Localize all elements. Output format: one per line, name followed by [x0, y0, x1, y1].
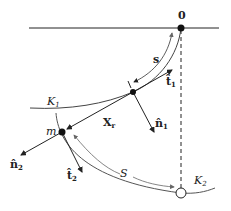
- t2-vector: [62, 132, 82, 172]
- xr-vector: [67, 92, 133, 129]
- t1-label: t̂1: [166, 74, 176, 89]
- k2-label: K2: [193, 174, 207, 188]
- origin-point: [178, 25, 185, 32]
- S-label: S: [120, 167, 128, 180]
- s-label: s: [153, 53, 159, 66]
- t2-label: t̂2: [67, 168, 77, 183]
- n1-vector: [133, 92, 154, 132]
- curve-k2: [56, 113, 215, 193]
- curve-point: [130, 89, 136, 95]
- m-point: [59, 129, 66, 136]
- k1-label: K1: [46, 95, 60, 109]
- xr-label: Xr: [103, 116, 116, 130]
- tick-mark: [128, 81, 131, 88]
- origin-label: 0: [178, 9, 186, 22]
- n2-label: n̂2: [10, 158, 23, 172]
- m-label: m: [46, 125, 56, 138]
- projection-circle: [176, 188, 186, 198]
- arc-S-arrow: [74, 135, 120, 174]
- n1-label: n̂1: [155, 117, 168, 131]
- diagram-canvas: 0 s t̂1 n̂1 K1 Xr m n̂2 t̂2 S K2: [0, 0, 231, 211]
